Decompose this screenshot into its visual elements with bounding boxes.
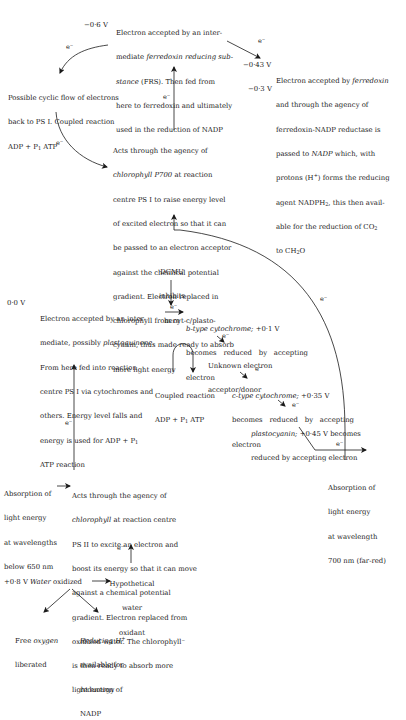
water-name: Water	[30, 578, 51, 586]
ferredoxin-line: and through the agency of	[276, 101, 403, 109]
light-650-node: Absorption of light energy at wavelength…	[4, 474, 57, 579]
cyt-b-line: b-type cytochrome; +0·1 V	[186, 325, 308, 333]
ferredoxin-line: protons (H+) forms the reducing	[276, 174, 403, 182]
cyt-c-potential: +0·35 V	[301, 392, 329, 400]
ferredoxin-line: ferredoxin-NADP reductase is	[276, 126, 403, 134]
pq-line: mediate, possibly plastoquinone.	[40, 339, 162, 347]
ferredoxin-line: to CH2O	[276, 247, 403, 255]
far-red-line: at wavelength	[328, 533, 386, 541]
coupled-line: Coupled reaction	[155, 392, 215, 400]
water-node: +0·8 V Water oxidized	[4, 578, 82, 586]
cyt-c-name: c-type cytochrome;	[232, 392, 299, 400]
cyt-b-potential: +0·1 V	[256, 325, 280, 333]
electron-label: e⁻	[258, 38, 265, 45]
cyclic-line: Possible cyclic flow of electrons	[8, 94, 119, 102]
cyclic-line: back to PS I. Coupled reaction	[8, 118, 119, 126]
oxygen-node: Free oxygen liberated	[15, 621, 58, 678]
coupled-line: ADP + P1 ATP	[155, 416, 215, 424]
ferredoxin-line: Electron accepted by ferredoxin	[276, 77, 403, 85]
electron-label: e⁻	[320, 296, 327, 303]
plastoquinone-node: Electron accepted by an inter- mediate, …	[40, 299, 162, 477]
oxidant-line: Hypothetical	[108, 580, 156, 588]
plastocyanin-potential: +0·45 V	[300, 430, 328, 438]
frs-line: stance (FRS). Then fed from	[116, 78, 238, 86]
plastoquinone-potential: 0·0 V	[7, 299, 25, 307]
ferredoxin-line: agent NADPH2, this then avail-	[276, 199, 403, 207]
plastocyanin-node: plastocyanin; +0·45 V becomes reduced by…	[251, 414, 361, 471]
reducing-h-line: reduction of	[80, 686, 125, 694]
reducing-h-node: Reducing H+ available for reduction of N…	[80, 621, 125, 720]
reducing-h-line: available for	[80, 661, 125, 669]
ferredoxin-node: Electron accepted by ferredoxin and thro…	[276, 61, 403, 263]
cyt-b-name: b-type cytochrome;	[186, 325, 253, 333]
frs-line: mediate ferredoxin reducing sub-	[116, 53, 238, 61]
dcmu-line: DCMU	[155, 268, 189, 276]
ps1-line: chlorophyll P700 at reaction	[113, 171, 236, 179]
oxygen-line: liberated	[15, 661, 58, 669]
cyt-c-line: c-type cytochrome; +0·35 V	[232, 392, 354, 400]
ps2-line: PS II to excite an electron and	[72, 541, 190, 549]
cyclic-line: ADP + P1 ATP	[8, 143, 119, 151]
far-red-line: Absorption of	[328, 484, 386, 492]
pq-line: others. Energy level falls and	[40, 412, 162, 420]
ps1-line: of excited electron so that it can	[113, 220, 236, 228]
light-650-line: light energy	[4, 514, 57, 522]
ps1-line: centre PS I to raise energy level	[113, 196, 236, 204]
cyclic-node: Possible cyclic flow of electrons back t…	[8, 78, 119, 159]
oxidant-line: water	[108, 604, 156, 612]
pq-line: ATP reaction	[40, 461, 162, 469]
far-red-line: 700 nm (far-red)	[328, 557, 386, 565]
electron-label: e⁻	[66, 44, 73, 51]
frs-line: here to ferredoxin and ultimately	[116, 102, 238, 110]
ps2-line: Acts through the agency of	[72, 492, 190, 500]
water-potential: +0·8 V	[4, 578, 28, 586]
ferredoxin-line: passed to NADP which, with	[276, 150, 403, 158]
ferredoxin-line: able for the reduction of CO2	[276, 223, 403, 231]
pq-line: energy is used for ADP + P1	[40, 437, 162, 445]
ferredoxin-potential-2: −0·3 V	[248, 85, 272, 93]
frs-node: Electron accepted by an inter- mediate f…	[116, 13, 238, 143]
plastocyanin-name: plastocyanin;	[251, 430, 297, 438]
pq-line: Electron accepted by an inter-	[40, 315, 162, 323]
pq-line: From here fed into reaction	[40, 364, 162, 372]
plastocyanin-line: reduced by accepting electron	[251, 454, 361, 462]
plastocyanin-line: plastocyanin; +0·45 V becomes	[251, 430, 361, 438]
far-red-node: Absorption of light energy at wavelength…	[328, 468, 386, 573]
pq-line: centre PS I via cytochromes and	[40, 388, 162, 396]
frs-line: Electron accepted by an inter-	[116, 29, 238, 37]
plastocyanin-line: becomes	[330, 430, 361, 438]
frs-potential: −0·6 V	[84, 21, 108, 29]
oxygen-line: Free oxygen	[15, 637, 58, 645]
light-650-line: below 650 nm	[4, 563, 57, 571]
light-650-line: Absorption of	[4, 490, 57, 498]
coupled-node: Coupled reaction ADP + P1 ATP	[155, 376, 215, 433]
light-650-line: at wavelengths	[4, 539, 57, 547]
reducing-h-line: NADP	[80, 710, 125, 718]
far-red-line: light energy	[328, 508, 386, 516]
reducing-h-line: Reducing H+	[80, 637, 125, 645]
unknown-line: Unknown electron	[208, 362, 272, 370]
ferredoxin-potential-1: −0·43 V	[243, 61, 271, 69]
ps2-line: chlorophyll at reaction centre	[72, 516, 190, 524]
arrow-water-to-oxygen	[44, 589, 70, 612]
water-text: oxidized	[53, 578, 82, 586]
ps1-line: Acts through the agency of	[113, 147, 236, 155]
